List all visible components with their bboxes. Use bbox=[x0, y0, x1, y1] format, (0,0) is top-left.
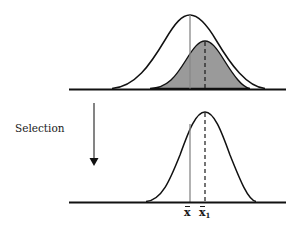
mean-x-bar-label: x bbox=[184, 207, 191, 218]
diagram-graphics bbox=[0, 0, 298, 237]
selection-label: Selection bbox=[15, 122, 65, 134]
mean-1-symbol: x bbox=[199, 207, 206, 218]
mean-1-subscript: 1 bbox=[206, 211, 211, 220]
mean-symbol: x bbox=[184, 207, 191, 218]
mean-x-bar-1-label: x1 bbox=[199, 207, 210, 219]
offspring-distribution-curve bbox=[146, 112, 256, 202]
selected-distribution-curve bbox=[150, 41, 250, 89]
selection-arrow-head-icon bbox=[90, 158, 99, 166]
selection-diagram: Selection x x1 bbox=[0, 0, 298, 237]
